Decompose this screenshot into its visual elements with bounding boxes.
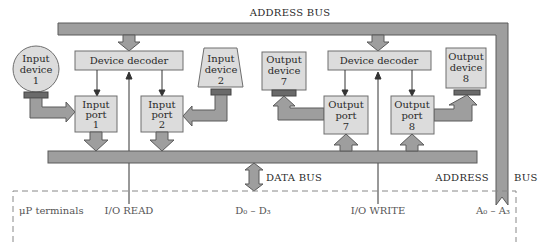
io-interface-diagram: ADDRESS BUS Device decoder Device decode… <box>0 0 546 242</box>
io-read-label: I/O READ <box>105 205 154 216</box>
address-arrow-decoder-2 <box>367 35 389 51</box>
port-1-to-data-bus-arrow <box>84 132 108 151</box>
svg-text:Input: Input <box>207 53 234 64</box>
svg-text:port: port <box>401 110 422 121</box>
address-label-right: BUS <box>514 172 538 183</box>
svg-text:port: port <box>335 110 356 121</box>
svg-text:1: 1 <box>33 75 39 86</box>
svg-text:7: 7 <box>281 76 287 87</box>
address-bus-label: ADDRESS BUS <box>249 7 331 18</box>
data-bus-to-port-8-arrow <box>400 134 424 151</box>
svg-text:Output: Output <box>394 99 430 110</box>
input-device-1-to-port-1-arrow <box>30 98 75 122</box>
address-arrow-decoder-1 <box>118 35 140 51</box>
up-terminals-label: μP terminals <box>19 205 84 216</box>
address-label-left: ADDRESS <box>434 172 489 183</box>
data-bus-bidirectional-arrow <box>245 163 263 191</box>
svg-text:7: 7 <box>343 121 349 132</box>
svg-text:device: device <box>205 64 238 75</box>
svg-text:2: 2 <box>159 119 165 130</box>
input-device-2: Input device 2 <box>198 48 243 95</box>
svg-text:device: device <box>450 62 483 73</box>
svg-text:1: 1 <box>93 119 99 130</box>
svg-text:Input: Input <box>22 53 49 64</box>
select-lines <box>94 70 415 96</box>
input-port-2: Input port 2 <box>141 96 183 132</box>
decoder-2-label: Device decoder <box>340 55 419 66</box>
svg-text:device: device <box>268 65 301 76</box>
svg-text:device: device <box>20 64 53 75</box>
data-bus <box>48 151 477 163</box>
data-lines-label: D₀ – D₃ <box>235 205 270 216</box>
svg-text:2: 2 <box>218 75 224 86</box>
input-device-2-to-port-2-arrow <box>183 95 227 126</box>
svg-text:Output: Output <box>266 54 302 65</box>
input-port-1: Input port 1 <box>75 96 117 132</box>
svg-text:Output: Output <box>328 99 364 110</box>
output-port-7: Output port 7 <box>324 96 368 134</box>
device-decoder-2: Device decoder <box>328 51 431 70</box>
data-bus-label: DATA BUS <box>266 172 322 183</box>
address-lines-label: A₀ – A₃ <box>475 205 510 216</box>
input-device-1: Input device 1 <box>13 46 59 98</box>
io-write-label: I/O WRITE <box>351 205 405 216</box>
svg-text:8: 8 <box>463 73 469 84</box>
port-7-to-output-device-7-arrow <box>273 96 324 120</box>
data-bus-to-port-7-arrow <box>334 134 358 151</box>
svg-text:Output: Output <box>448 51 484 62</box>
output-device-8: Output device 8 <box>446 48 486 95</box>
port-2-to-data-bus-arrow <box>150 132 174 151</box>
up-terminals-boundary <box>13 191 516 242</box>
decoder-1-label: Device decoder <box>90 55 169 66</box>
output-device-7: Output device 7 <box>262 52 306 96</box>
device-decoder-1: Device decoder <box>75 51 183 70</box>
port-8-to-output-device-8-arrow <box>434 95 477 121</box>
svg-text:8: 8 <box>409 121 415 132</box>
output-port-8: Output port 8 <box>391 96 434 134</box>
